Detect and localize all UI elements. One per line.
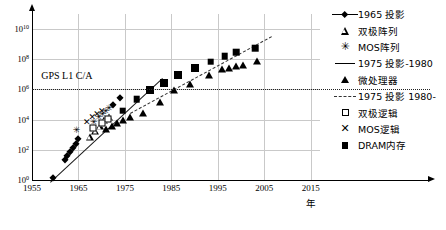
data-point-filled-square <box>174 71 182 79</box>
data-point-filled-diamond <box>117 94 124 101</box>
x-tick-label: 1955 <box>23 183 41 193</box>
data-point-filled-triangle <box>239 62 247 69</box>
data-point-asterisk: ✳ <box>105 104 113 113</box>
legend-item[interactable]: 1965 投影 <box>332 6 446 22</box>
data-point-filled-triangle <box>126 114 134 121</box>
data-point-cross: ✕ <box>98 107 106 116</box>
legend-item[interactable]: DRAM内存 <box>332 137 446 153</box>
gridline-horizontal <box>32 59 320 60</box>
legend-line-diamond-icon <box>332 7 358 21</box>
legend-filled-triangle-icon <box>332 73 358 87</box>
x-tick-label: 1965 <box>69 183 87 193</box>
data-point-filled-triangle <box>205 72 213 79</box>
legend-solid-line-icon <box>332 56 358 70</box>
y-tick-label: 108 <box>18 54 30 65</box>
legend-filled-square-icon <box>332 138 358 152</box>
legend-item[interactable]: 双极逻辑 <box>332 104 446 120</box>
legend-item-label: MOS逻辑 <box>358 122 400 136</box>
data-point-filled-square <box>221 53 228 60</box>
trend-line-dashed <box>130 36 272 114</box>
plot-area: ✳✳✳✳✳✳✕✕✕✕ <box>32 14 320 180</box>
legend-item[interactable]: 双极阵列 <box>332 22 446 38</box>
threshold-line <box>32 89 430 90</box>
legend-item[interactable]: ✕MOS逻辑 <box>332 121 446 137</box>
data-point-filled-triangle <box>156 98 164 105</box>
legend-item-label: 微处理器 <box>358 73 398 87</box>
data-point-filled-triangle <box>186 81 194 88</box>
data-point-filled-square <box>252 45 259 52</box>
data-point-filled-square <box>208 58 215 65</box>
legend-asterisk-icon: ✳ <box>332 40 358 54</box>
legend-item-label: DRAM内存 <box>358 138 406 152</box>
x-tick-label: 1975 <box>116 183 134 193</box>
x-axis-arrow <box>428 176 435 182</box>
gridline-horizontal <box>32 29 320 30</box>
x-tick-label: 2005 <box>255 183 273 193</box>
legend-item-label: 双极阵列 <box>358 24 398 38</box>
data-point-open-square <box>104 115 111 122</box>
chart-legend: 1965 投影双极阵列✳MOS阵列1975 投影-1980微处理器1975 投影… <box>332 6 446 154</box>
gridline-vertical <box>311 14 312 180</box>
legend-dashed-line-icon <box>332 89 358 103</box>
gridline-horizontal <box>32 120 320 121</box>
data-point-open-triangle <box>86 133 94 140</box>
legend-item[interactable]: 微处理器 <box>332 72 446 88</box>
gridline-vertical <box>171 14 172 180</box>
data-point-filled-square <box>233 49 240 56</box>
data-point-filled-square <box>133 96 140 103</box>
x-tick-label: 1995 <box>209 183 227 193</box>
gridline-vertical <box>125 14 126 180</box>
legend-item-label: 1965 投影 <box>358 7 405 21</box>
chart-root: ✳✳✳✳✳✳✕✕✕✕ 1001021041061081010 195519651… <box>0 0 446 230</box>
y-axis-arrow <box>29 4 35 11</box>
gridline-vertical <box>218 14 219 180</box>
data-point-filled-square <box>191 64 199 72</box>
x-tick-label: 2015 <box>302 183 320 193</box>
x-axis-title: 年 <box>306 196 316 210</box>
y-axis-line <box>32 8 33 180</box>
legend-cross-icon: ✕ <box>332 122 358 136</box>
x-tick-label: 1985 <box>162 183 180 193</box>
legend-open-triangle-icon <box>332 24 358 38</box>
y-tick-label: 1010 <box>15 24 30 35</box>
gridline-horizontal <box>32 150 320 151</box>
annotation-gps-l1-ca: GPS L1 C/A <box>41 70 92 81</box>
data-point-filled-triangle <box>253 57 261 64</box>
data-point-filled-triangle <box>139 109 147 116</box>
data-point-open-square <box>90 124 97 131</box>
legend-open-square-icon <box>332 106 358 120</box>
legend-item-label: 1975 投影 1980- <box>358 89 436 103</box>
y-tick-label: 102 <box>18 144 30 155</box>
data-point-asterisk: ✳ <box>73 126 81 135</box>
legend-item[interactable]: 1975 投影-1980 <box>332 55 446 71</box>
y-tick-label: 106 <box>18 84 30 95</box>
y-tick-label: 104 <box>18 114 30 125</box>
legend-item-label: 双极逻辑 <box>358 106 398 120</box>
data-point-filled-square <box>119 107 126 114</box>
data-point-filled-square <box>160 79 168 87</box>
x-axis-line <box>32 180 430 181</box>
legend-item[interactable]: ✳MOS阵列 <box>332 39 446 55</box>
legend-item-label: MOS阵列 <box>358 40 400 54</box>
legend-item-label: 1975 投影-1980 <box>358 56 433 70</box>
